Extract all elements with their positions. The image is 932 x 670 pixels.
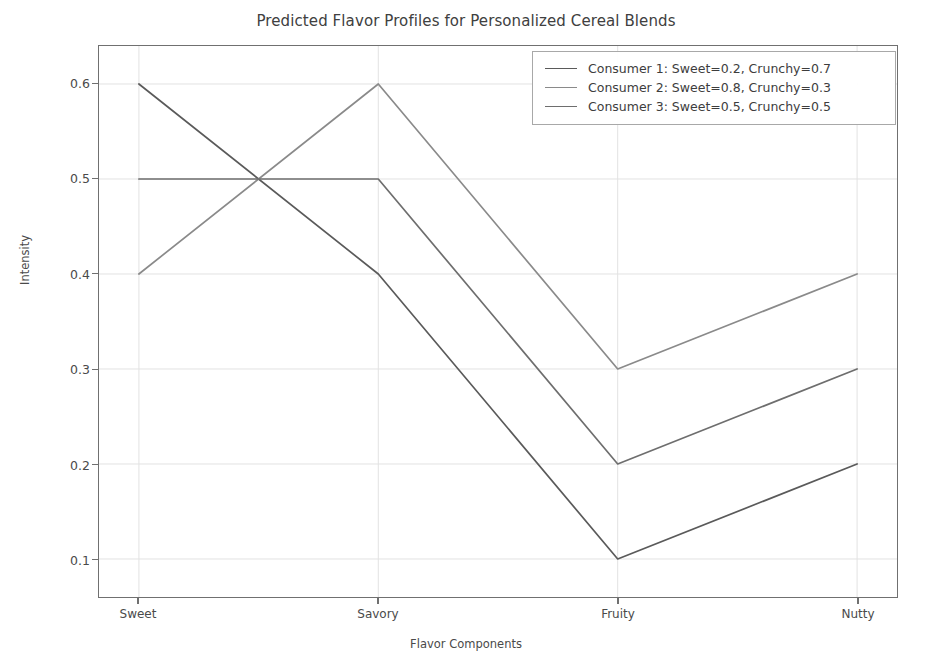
y-tick-mark: [92, 369, 98, 370]
y-axis-label: Intensity: [18, 235, 32, 285]
legend-line-swatch: [545, 68, 577, 69]
x-tick-label: Fruity: [601, 607, 635, 621]
legend-label: Consumer 2: Sweet=0.8, Crunchy=0.3: [588, 80, 831, 95]
legend-item-1[interactable]: Consumer 1: Sweet=0.2, Crunchy=0.7: [542, 59, 886, 78]
x-tick-label: Sweet: [120, 607, 157, 621]
legend-line-swatch: [545, 106, 577, 107]
y-tick-mark: [92, 178, 98, 179]
y-tick-mark: [92, 559, 98, 560]
legend-line-swatch: [545, 87, 577, 88]
legend-label: Consumer 1: Sweet=0.2, Crunchy=0.7: [588, 61, 831, 76]
x-tick-mark: [377, 598, 378, 604]
x-tick-label: Nutty: [841, 607, 874, 621]
x-tick-mark: [137, 598, 138, 604]
y-tick-mark: [92, 83, 98, 84]
x-tick-label: Savory: [357, 607, 398, 621]
x-tick-mark: [617, 598, 618, 604]
y-tick-mark: [92, 273, 98, 274]
x-axis-label: Flavor Components: [0, 637, 932, 651]
legend-item-2[interactable]: Consumer 2: Sweet=0.8, Crunchy=0.3: [542, 78, 886, 97]
chart-figure: Predicted Flavor Profiles for Personaliz…: [0, 0, 932, 670]
y-tick-mark: [92, 464, 98, 465]
chart-legend: Consumer 1: Sweet=0.2, Crunchy=0.7Consum…: [532, 51, 896, 125]
legend-item-3[interactable]: Consumer 3: Sweet=0.5, Crunchy=0.5: [542, 97, 886, 116]
x-tick-mark: [857, 598, 858, 604]
legend-label: Consumer 3: Sweet=0.5, Crunchy=0.5: [588, 99, 831, 114]
